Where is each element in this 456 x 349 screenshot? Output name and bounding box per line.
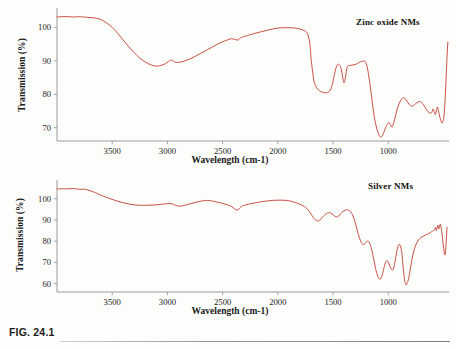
svg-text:80: 80 [42,236,51,246]
figure-caption: FIG. 24.1 [9,326,55,338]
svg-text:1000: 1000 [380,297,397,307]
x-axis-label-zinc: Wavelength (cm-1) [150,155,310,165]
svg-text:1500: 1500 [324,297,341,307]
svg-text:70: 70 [42,123,51,133]
svg-text:90: 90 [42,215,51,225]
figure-page: 708090100350030002500200015001000 Transm… [0,0,456,349]
svg-text:2500: 2500 [214,297,231,307]
svg-text:60: 60 [42,279,51,289]
silver-plot: 60708090100350030002500200015001000 [0,172,456,322]
svg-text:70: 70 [42,257,51,267]
svg-text:3500: 3500 [104,146,121,156]
svg-text:3000: 3000 [159,297,176,307]
svg-text:1500: 1500 [324,146,341,156]
svg-text:2500: 2500 [214,146,231,156]
caption-divider [60,341,450,342]
svg-text:100: 100 [38,194,51,204]
chart-panel-silver: 60708090100350030002500200015001000 Tran… [0,172,456,322]
svg-text:90: 90 [42,56,51,66]
chart-panel-zinc-oxide: 708090100350030002500200015001000 Transm… [0,0,456,172]
svg-text:1000: 1000 [380,146,397,156]
svg-text:100: 100 [38,22,51,32]
svg-text:2000: 2000 [269,146,286,156]
svg-text:3000: 3000 [159,146,176,156]
y-axis-label-silver: Transmission (%) [15,187,25,283]
svg-text:2000: 2000 [269,297,286,307]
series-title-silver: Silver NMs [368,181,413,191]
svg-text:80: 80 [42,89,51,99]
svg-text:3500: 3500 [104,297,121,307]
series-title-zinc-oxide: Zinc oxide NMs [356,17,420,27]
x-axis-label-silver: Wavelength (cm-1) [150,306,310,316]
y-axis-label-zinc: Transmission (%) [17,27,27,123]
